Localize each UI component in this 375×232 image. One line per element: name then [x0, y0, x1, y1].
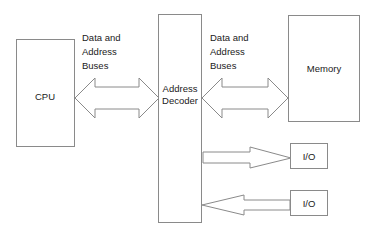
- bus-label-left-line2: Address: [82, 46, 117, 57]
- node-cpu-label: CPU: [35, 91, 55, 102]
- connector-decoder-to-memory-arrow[interactable]: [202, 78, 288, 118]
- node-address-decoder-label-line1: Address: [163, 83, 198, 94]
- bus-label-left-line1: Data and: [82, 32, 121, 43]
- node-address-decoder[interactable]: [159, 15, 202, 223]
- node-io-bottom-label: I/O: [303, 198, 316, 209]
- connector-cpu-to-decoder-arrow[interactable]: [75, 78, 159, 118]
- bus-label-right-line2: Address: [210, 46, 245, 57]
- bus-label-right-line1: Data and: [210, 32, 249, 43]
- connector-decoder-to-io-top-arrow[interactable]: [203, 147, 291, 168]
- block-diagram: CPU Address Decoder Memory I/O I/O Data …: [0, 0, 375, 232]
- node-io-top-label: I/O: [303, 151, 316, 162]
- node-address-decoder-label-line2: Decoder: [162, 95, 198, 106]
- bus-label-right-line3: Buses: [210, 60, 237, 71]
- node-memory-label: Memory: [307, 63, 342, 74]
- connector-io-bottom-to-decoder-arrow[interactable]: [202, 195, 290, 215]
- bus-label-left-line3: Buses: [82, 60, 109, 71]
